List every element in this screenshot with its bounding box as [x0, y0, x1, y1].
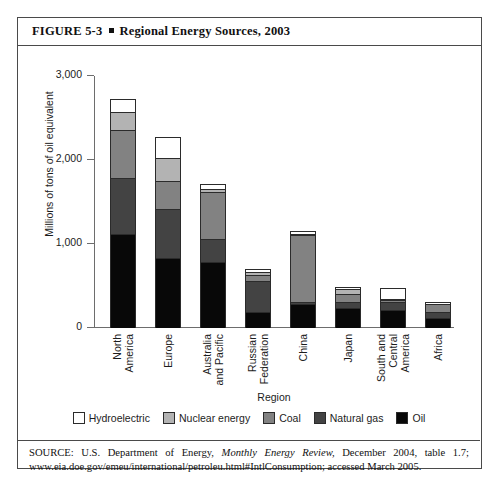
figure-container: FIGURE 5-3Regional Energy Sources, 2003 …	[17, 17, 482, 469]
bar-segment-natural-gas	[110, 178, 136, 233]
source-divider	[18, 440, 480, 441]
bar-segment-oil	[380, 310, 406, 328]
bar-russian-federation[interactable]: RussianFederation	[245, 269, 271, 328]
bar-segment-nuclear-energy	[155, 158, 181, 180]
bar-segment-hydroelectric	[425, 302, 451, 304]
legend-swatch-icon	[396, 412, 408, 424]
y-axis-line	[94, 76, 95, 328]
bar-segment-natural-gas	[335, 302, 361, 308]
bar-segment-nuclear-energy	[335, 289, 361, 294]
bar-segment-hydroelectric	[155, 137, 181, 158]
bar-japan[interactable]: Japan	[335, 287, 361, 328]
bar-europe[interactable]: Europe	[155, 137, 181, 328]
source-note: SOURCE: U.S. Department of Energy, Month…	[29, 446, 469, 473]
bar-segment-hydroelectric	[245, 269, 271, 272]
bar-segment-natural-gas	[380, 302, 406, 310]
legend-swatch-icon	[263, 412, 275, 424]
bar-segment-natural-gas	[290, 302, 316, 305]
bar-china[interactable]: China	[290, 231, 316, 328]
source-prefix: SOURCE: U.S. Department of Energy,	[29, 447, 214, 458]
x-axis-title: Region	[94, 391, 454, 403]
bar-australia-and-pacific[interactable]: Australiaand Pacific	[200, 184, 226, 328]
y-tick-0: 0	[87, 327, 94, 328]
source-publication: Monthly Energy Review,	[222, 447, 335, 458]
bar-north-america[interactable]: NorthAmerica	[110, 99, 136, 328]
legend-label: Hydroelectric	[89, 412, 150, 424]
legend-item-oil[interactable]: Oil	[396, 412, 425, 424]
bar-segment-oil	[425, 318, 451, 329]
chart-axes: 01,0002,0003,000 NorthAmericaEuropeAustr…	[94, 76, 454, 328]
legend-item-coal[interactable]: Coal	[263, 412, 301, 424]
legend-swatch-icon	[163, 412, 175, 424]
bar-segment-natural-gas	[425, 312, 451, 317]
bar-south-and-central-america[interactable]: South andCentralAmerica	[380, 288, 406, 328]
bar-segment-coal	[335, 294, 361, 302]
bar-africa[interactable]: Africa	[425, 302, 451, 328]
bar-segment-oil	[335, 308, 361, 328]
chart-legend: HydroelectricNuclear energyCoalNatural g…	[18, 412, 480, 424]
legend-item-natural-gas[interactable]: Natural gas	[314, 412, 384, 424]
bar-segment-oil	[200, 262, 226, 328]
bar-segment-natural-gas	[155, 209, 181, 259]
bar-segment-coal	[200, 192, 226, 239]
legend-item-hydroelectric[interactable]: Hydroelectric	[73, 412, 150, 424]
y-tick-label-0: 0	[76, 320, 82, 332]
bar-segment-coal	[245, 275, 271, 281]
legend-label: Coal	[279, 412, 301, 424]
figure-bullet-icon	[109, 28, 114, 33]
legend-swatch-icon	[73, 412, 85, 424]
chart-plot-area: Millions of tons of oil equivalent 01,00…	[18, 46, 480, 467]
bar-segment-coal	[425, 304, 451, 312]
bar-segment-oil	[245, 312, 271, 328]
y-tick-label-2000: 2,000	[56, 152, 82, 164]
y-tick-2000: 2,000	[87, 159, 94, 160]
bar-segment-oil	[155, 258, 181, 328]
y-tick-label-3000: 3,000	[56, 68, 82, 80]
bar-segment-coal	[155, 181, 181, 209]
bar-segment-natural-gas	[245, 281, 271, 313]
bar-segment-hydroelectric	[200, 184, 226, 189]
bar-segment-hydroelectric	[110, 99, 136, 112]
y-axis-title: Millions of tons of oil equivalent	[43, 64, 55, 264]
legend-label: Nuclear energy	[179, 412, 250, 424]
figure-title-text: Regional Energy Sources, 2003	[119, 24, 290, 38]
bar-segment-oil	[290, 304, 316, 328]
y-tick-3000: 3,000	[87, 75, 94, 76]
figure-number: FIGURE 5-3	[32, 24, 102, 38]
bar-segment-coal	[290, 235, 316, 301]
bar-segment-nuclear-energy	[110, 112, 136, 130]
bar-segment-coal	[380, 300, 406, 302]
legend-label: Natural gas	[330, 412, 384, 424]
bar-segment-hydroelectric	[290, 231, 316, 234]
y-tick-1000: 1,000	[87, 243, 94, 244]
bar-segment-oil	[110, 234, 136, 328]
legend-swatch-icon	[314, 412, 326, 424]
bar-segment-hydroelectric	[335, 287, 361, 289]
bar-segment-nuclear-energy	[245, 272, 271, 275]
bar-segment-natural-gas	[200, 239, 226, 261]
bar-segment-coal	[110, 130, 136, 179]
figure-title: FIGURE 5-3Regional Energy Sources, 2003	[32, 24, 290, 39]
bar-segment-hydroelectric	[380, 288, 406, 300]
bar-segment-nuclear-energy	[200, 189, 226, 192]
legend-item-nuclear-energy[interactable]: Nuclear energy	[163, 412, 250, 424]
y-tick-label-1000: 1,000	[56, 236, 82, 248]
legend-label: Oil	[412, 412, 425, 424]
